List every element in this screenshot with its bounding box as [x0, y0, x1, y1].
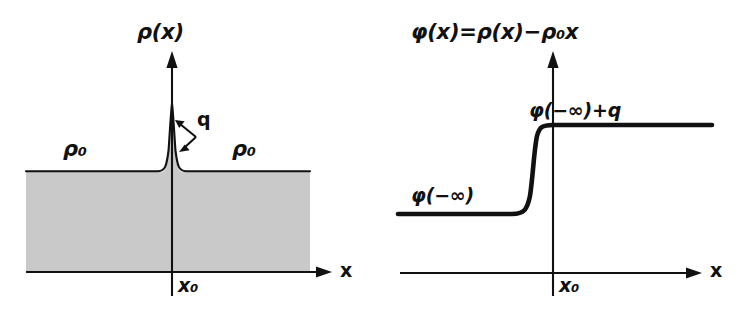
- rho0-label-right: ρ₀: [232, 139, 256, 160]
- right-x-axis-label: x: [710, 261, 722, 280]
- left-origin-label: x₀: [178, 276, 198, 295]
- right-y-axis-label: φ(x)=ρ(x)−ρ₀x: [411, 22, 578, 43]
- left-y-axis-arrowhead: [166, 51, 177, 68]
- left-y-axis-label: ρ(x): [137, 22, 184, 43]
- left-x-axis-arrowhead: [316, 267, 332, 278]
- right-y-axis-arrowhead: [547, 51, 558, 68]
- rho0-shaded-region: [26, 106, 310, 272]
- right-panel-graphic: [372, 0, 743, 316]
- upper-plateau-label: φ(−∞)+q: [529, 101, 621, 120]
- right-x-axis-arrowhead: [686, 268, 702, 279]
- panel-potential-step: φ(x)=ρ(x)−ρ₀x φ(−∞)+q φ(−∞) x₀ x: [372, 0, 743, 316]
- left-x-axis-label: x: [340, 261, 352, 280]
- rho0-label-left: ρ₀: [63, 139, 87, 160]
- right-origin-label: x₀: [559, 276, 579, 295]
- figure-container: ρ(x) ρ₀ ρ₀ q x₀ x φ(x)=ρ(x)−ρ₀x φ(−∞)+q …: [0, 0, 743, 316]
- q-annotation-arrow-line: [180, 124, 196, 137]
- panel-charge-density: ρ(x) ρ₀ ρ₀ q x₀ x: [0, 0, 372, 316]
- left-panel-graphic: [0, 0, 372, 316]
- q-annotation-label: q: [197, 110, 210, 129]
- lower-plateau-label: φ(−∞): [411, 186, 474, 205]
